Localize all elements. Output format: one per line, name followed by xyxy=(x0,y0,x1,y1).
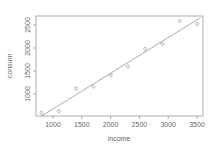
y-axis-label: consum xyxy=(6,54,13,79)
y-tick-label: 2000 xyxy=(24,40,31,56)
y-axis: 1000150020002500 xyxy=(24,17,36,102)
data-point xyxy=(144,47,147,50)
x-tick-label: 1000 xyxy=(45,121,61,128)
regression-line xyxy=(41,18,200,116)
data-point xyxy=(92,85,95,88)
x-tick-label: 2500 xyxy=(132,121,148,128)
data-point xyxy=(196,23,199,26)
x-tick-label: 3500 xyxy=(189,121,205,128)
data-point xyxy=(126,65,129,68)
y-tick-label: 1500 xyxy=(24,63,31,79)
y-tick-label: 2500 xyxy=(24,17,31,33)
data-point xyxy=(161,42,164,45)
data-point xyxy=(40,111,43,114)
x-axis: 100015002000250030003500 xyxy=(45,116,205,128)
data-point xyxy=(57,110,60,113)
x-tick-label: 3000 xyxy=(160,121,176,128)
x-tick-label: 2000 xyxy=(103,121,119,128)
scatter-chart: 100015002000250030003500 100015002000250… xyxy=(0,0,215,152)
plot-box xyxy=(36,16,203,116)
data-point xyxy=(109,74,112,77)
data-point xyxy=(75,87,78,90)
x-tick-label: 1500 xyxy=(74,121,90,128)
y-tick-label: 1000 xyxy=(24,86,31,102)
data-point xyxy=(178,19,181,22)
x-axis-label: income xyxy=(108,135,131,142)
